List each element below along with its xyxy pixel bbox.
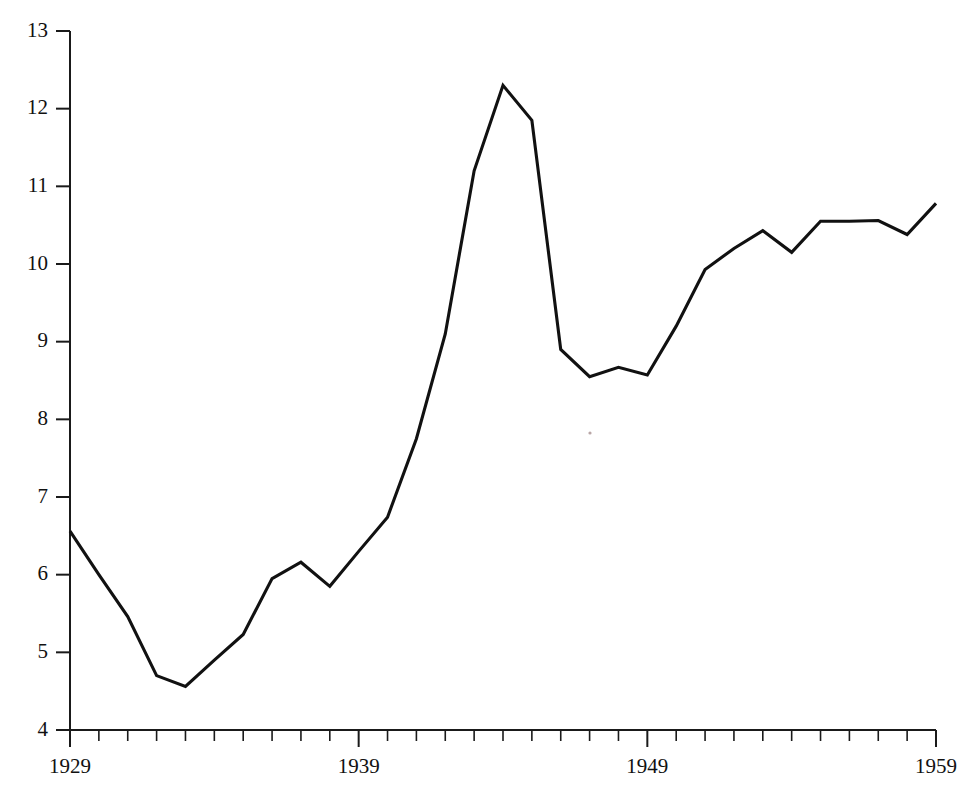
y-tick-label: 11: [28, 173, 48, 197]
page-speck: [588, 431, 591, 434]
y-tick-label: 8: [38, 406, 49, 430]
x-axis-tick-labels: 1929193919491959: [49, 754, 957, 778]
chart-canvas: 45678910111213 1929193919491959: [0, 0, 978, 807]
x-axis-ticks: [70, 730, 936, 747]
y-tick-label: 7: [38, 484, 49, 508]
y-axis: 45678910111213: [27, 18, 70, 741]
x-tick-label: 1929: [49, 754, 91, 778]
y-tick-label: 9: [38, 328, 49, 352]
y-tick-label: 6: [38, 561, 49, 585]
y-tick-label: 12: [27, 95, 48, 119]
y-axis-tick-labels: 45678910111213: [27, 18, 49, 741]
y-tick-label: 10: [27, 251, 48, 275]
y-tick-label: 5: [38, 639, 49, 663]
x-tick-label: 1949: [626, 754, 668, 778]
y-tick-label: 4: [38, 717, 49, 741]
x-tick-label: 1959: [915, 754, 957, 778]
y-axis-ticks: [56, 31, 70, 730]
line-chart: 45678910111213 1929193919491959: [0, 0, 978, 807]
x-axis: 1929193919491959: [49, 730, 957, 778]
x-tick-label: 1939: [338, 754, 380, 778]
y-tick-label: 13: [27, 18, 48, 42]
data-series-line: [70, 85, 936, 686]
